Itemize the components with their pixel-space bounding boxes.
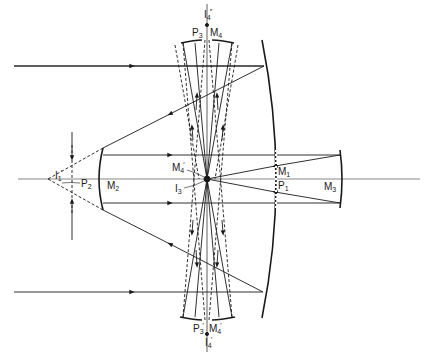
label-i4-top: I4″ [204,8,212,21]
mirror-m4-top [181,40,234,43]
label-m4-top: M4 [210,28,222,39]
label-p1: P1 [278,181,289,192]
label-m4-prime-mid: M4′ [172,161,185,174]
label-p3-prime-bot: P3′ [193,322,204,335]
mirror-m4-bottom [180,317,235,320]
label-m3: M3 [324,182,336,193]
label-m2: M2 [107,181,119,192]
optical-ray-diagram [0,0,428,357]
label-m1: M1 [278,167,290,178]
label-i3: I3 [175,184,182,195]
label-i1-prime: I1′ [55,169,62,182]
label-p3-top: P3 [192,28,203,39]
label-m4-prime-bot: M4′ [209,322,222,335]
label-p2: P2 [81,179,92,190]
label-i4-prime-bot: I4′ [205,336,212,349]
